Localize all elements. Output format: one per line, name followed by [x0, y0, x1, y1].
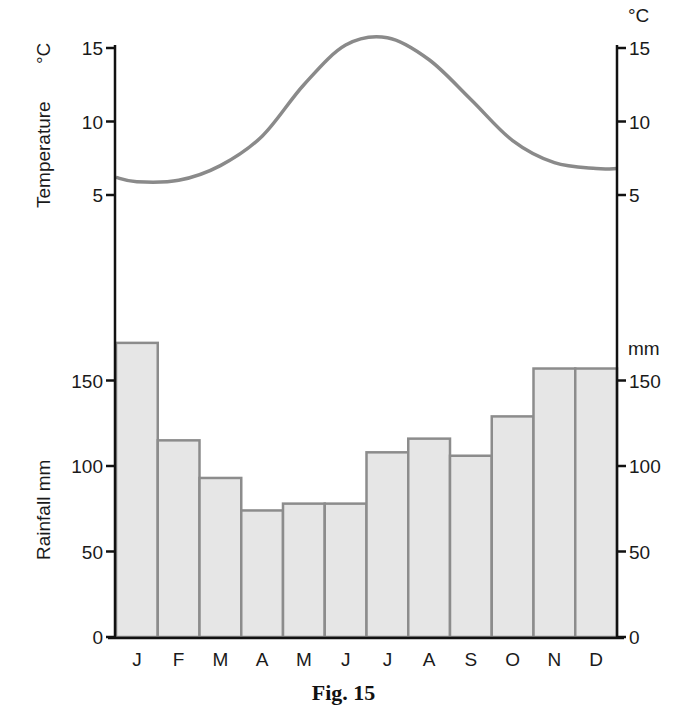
rainfall-bar — [450, 456, 492, 637]
month-label: M — [296, 649, 312, 670]
rainfall-bar — [367, 452, 409, 637]
tick-label: 0 — [92, 627, 103, 648]
rainfall-bar — [241, 510, 283, 637]
rainfall-bar — [158, 440, 200, 637]
rainfall-bar — [200, 478, 242, 637]
tick-label: 15 — [82, 38, 103, 59]
tick-label: 10 — [82, 112, 103, 133]
rainfall-bar — [283, 504, 325, 637]
month-label: D — [589, 649, 603, 670]
tick-label: 100 — [71, 456, 103, 477]
month-label: N — [548, 649, 562, 670]
rainfall-bar — [575, 369, 617, 637]
rainfall-bar — [534, 369, 576, 637]
month-label: M — [212, 649, 228, 670]
tick-label: 5 — [92, 185, 103, 206]
tick-label: 150 — [71, 371, 103, 392]
tick-label: 15 — [629, 38, 650, 59]
month-label: A — [423, 649, 436, 670]
climate-chart: 5510101515005050100100150150 JFMAMJJASON… — [0, 0, 687, 718]
tick-label: 50 — [629, 542, 650, 563]
tick-label: 0 — [629, 627, 640, 648]
rainfall-bar — [408, 439, 450, 637]
temperature-unit-right: °C — [628, 5, 649, 26]
tick-label: 150 — [629, 371, 661, 392]
tick-label: 50 — [82, 542, 103, 563]
month-label: S — [465, 649, 478, 670]
rainfall-axis-title: Rainfall mm — [33, 460, 54, 560]
rainfall-bar — [325, 504, 367, 637]
month-label: F — [173, 649, 185, 670]
month-label: J — [341, 649, 351, 670]
month-label: J — [383, 649, 393, 670]
rainfall-bars — [116, 343, 617, 637]
month-labels: JFMAMJJASOND — [132, 649, 603, 670]
month-label: O — [505, 649, 520, 670]
temperature-line — [116, 37, 617, 183]
temperature-axis-title: Temperature — [33, 101, 54, 208]
month-label: A — [256, 649, 269, 670]
tick-label: 5 — [629, 185, 640, 206]
tick-label: 100 — [629, 456, 661, 477]
rainfall-unit-right: mm — [628, 338, 660, 359]
temperature-unit-left: °C — [33, 43, 54, 64]
rainfall-bar — [492, 416, 534, 637]
month-label: J — [132, 649, 142, 670]
tick-label: 10 — [629, 112, 650, 133]
rainfall-bar — [116, 343, 158, 637]
figure-caption: Fig. 15 — [0, 680, 687, 706]
